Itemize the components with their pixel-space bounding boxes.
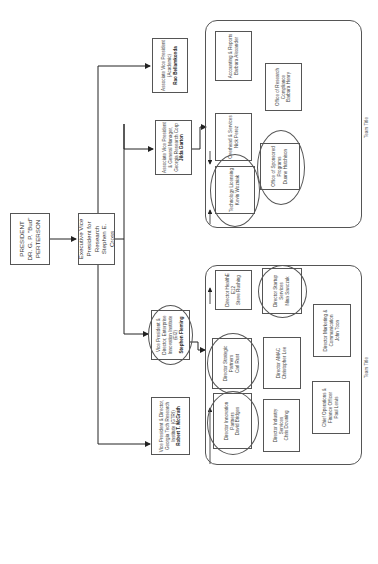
evp-box: Executive Vice President for Research St… (78, 213, 115, 265)
member-role: Director Marketing & Communication (323, 306, 334, 355)
team-member-startup: Director Startup Services Nina Sawczuk (262, 268, 302, 314)
vp-gtri-title: Vice President & Director, Georgia Tech … (159, 399, 176, 453)
member-name: Barbara Alexander (234, 37, 240, 75)
team-member-marketing: Director Marketing & Communication John … (313, 304, 351, 357)
evp-title: Executive Vice President for Research (77, 215, 100, 263)
connector-jilda-team (192, 127, 206, 149)
president-title: PRESIDENT (18, 221, 26, 256)
member-name: John Toon (335, 320, 341, 341)
member-name: Chris Downing (284, 411, 290, 441)
vp-ei2-name: Stephen Fleming (179, 317, 185, 354)
member-role: Director HealthE E12 (225, 272, 236, 308)
member-role: Director Industry Services (273, 401, 284, 450)
team-title-research: Team Title (364, 117, 369, 138)
team-member-finance: Chief Operations & Finance Officer Paul … (312, 381, 350, 434)
member-name: Barbara Henry (286, 72, 292, 102)
vp-ei2-title: Vice President & Director, Enterprise In… (156, 312, 179, 358)
connector-fleming-team (190, 342, 205, 350)
avp-grc-box: Associate Vice President & General Manag… (155, 120, 192, 175)
member-name: Kevin Wozniak (235, 175, 241, 205)
member-role: Office of Sponsored Programs (271, 145, 282, 188)
team-member-healthe: Director HealthE E12 Steve Rushing (215, 270, 252, 310)
member-role: Director Strategic Partners (223, 340, 234, 387)
team-member-compliance: Office of Research Compliance Barbara He… (265, 63, 302, 111)
avp-academic-title: Associate Vice President (Academic) (161, 40, 172, 91)
team-title-ei2: Team Title (364, 357, 369, 378)
team-member-sponsored-programs: Office of Sponsored Programs Duane Hutch… (260, 143, 300, 190)
org-chart: PRESIDENT DR. G. P. "Bud" PERTERSON Exec… (0, 0, 378, 564)
member-name: Steve Rushing (236, 275, 242, 305)
member-role: Director Innovation Partners (224, 395, 235, 447)
vp-gtri-box: Vice President & Director, Georgia Tech … (151, 397, 190, 455)
team-member-amac: Director AMAC Christopher Lee (263, 337, 301, 389)
team-member-innovation: Director Innovation Partners David Bridg… (213, 393, 252, 449)
team-member-licensing: Technology Licensing Kevin Wozniak (215, 166, 255, 214)
member-role: Office of Research Compliance (275, 65, 286, 109)
avp-grc-title: Associate Vice President & General Manag… (162, 122, 179, 173)
evp-name: Stephen E. Cross (100, 215, 116, 263)
member-role: Director Startup Services (273, 270, 284, 312)
president-name: DR. G. P. "Bud" PERTERSON (26, 215, 42, 263)
member-name: Christopher Lee (282, 347, 288, 380)
vp-ei2-box: Vice President & Director, Enterprise In… (151, 310, 190, 360)
team-member-industry: Director Industry Services Chris Downing (263, 399, 300, 452)
member-name: Nick Perez (234, 126, 240, 148)
president-box: PRESIDENT DR. G. P. "Bud" PERTERSON (10, 213, 50, 265)
member-name: Duane Hutchison (283, 149, 289, 184)
member-role: Chief Operations & Finance Officer (322, 383, 333, 432)
team-member-overhead: Overhead & Services Nick Perez (215, 113, 252, 161)
member-name: Nina Sawczuk (285, 276, 291, 305)
avp-grc-name: Jilda Garton (179, 134, 185, 161)
avp-academic-box: Associate Vice President (Academic) Rao … (152, 38, 188, 93)
member-name: David Bridges (235, 407, 241, 436)
member-name: Paul Lewis (334, 396, 340, 418)
team-member-strategic: Director Strategic Partners Carl Rust (212, 338, 252, 389)
member-name: Carl Rust (235, 354, 241, 373)
avp-academic-name: Rao Bellamkonda (173, 46, 179, 85)
vp-gtri-name: Robert T. McGrath (176, 406, 182, 446)
team-member-accounting: Accounting & Reports Barbara Alexander (215, 31, 252, 81)
